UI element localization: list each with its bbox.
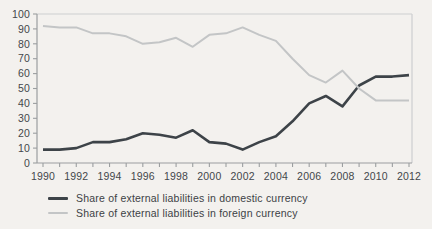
x-tick-label: 1994: [97, 170, 121, 182]
y-tick-label: 40: [18, 97, 30, 109]
x-tick-label: 2004: [264, 170, 288, 182]
legend-item-foreign-currency: Share of external liabilities in foreign…: [48, 207, 308, 219]
legend-label-domestic-currency: Share of external liabilities in domesti…: [76, 192, 308, 204]
x-tick-label: 2008: [330, 170, 354, 182]
x-tick-label: 2000: [197, 170, 221, 182]
series-line-foreign: [43, 26, 409, 101]
x-tick-label: 2012: [397, 170, 421, 182]
chart-figure: 0102030405060708090100199019921994199619…: [0, 0, 432, 229]
foreign-currency-line-swatch: [48, 212, 68, 214]
y-tick-label: 50: [18, 82, 30, 94]
chart-legend: Share of external liabilities in domesti…: [48, 192, 308, 219]
y-tick-label: 60: [18, 67, 30, 79]
x-tick-label: 2010: [364, 170, 388, 182]
y-tick-label: 80: [18, 38, 30, 50]
domestic-currency-line-swatch: [48, 197, 68, 200]
series-line-domestic: [43, 75, 409, 150]
y-tick-label: 0: [24, 157, 30, 169]
x-tick-label: 1996: [131, 170, 155, 182]
y-tick-label: 70: [18, 52, 30, 64]
y-tick-label: 90: [18, 23, 30, 35]
x-tick-label: 2002: [231, 170, 255, 182]
y-tick-label: 100: [12, 8, 30, 20]
x-tick-label: 1998: [164, 170, 188, 182]
x-tick-label: 1990: [31, 170, 55, 182]
x-tick-label: 1992: [64, 170, 88, 182]
legend-item-domestic-currency: Share of external liabilities in domesti…: [48, 192, 308, 204]
legend-label-foreign-currency: Share of external liabilities in foreign…: [76, 207, 298, 219]
x-tick-label: 2006: [297, 170, 321, 182]
y-tick-label: 10: [18, 142, 30, 154]
y-tick-label: 30: [18, 112, 30, 124]
y-tick-label: 20: [18, 127, 30, 139]
line-chart-canvas: 0102030405060708090100199019921994199619…: [0, 0, 432, 188]
